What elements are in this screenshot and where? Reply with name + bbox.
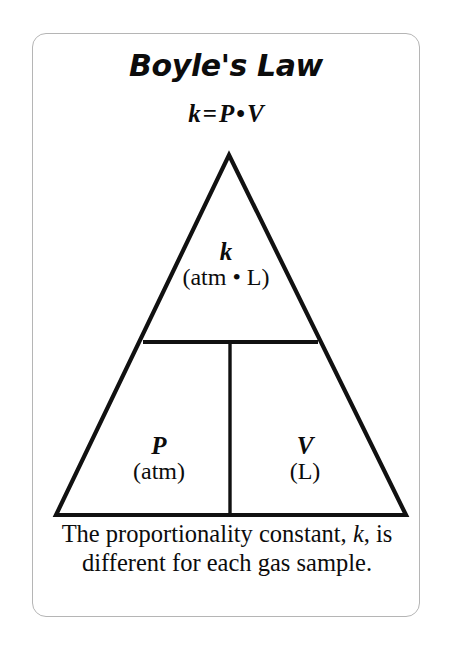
cell-v-symbol: V (235, 433, 375, 459)
caption-part-1: The proportionality constant, (62, 520, 353, 547)
triangle-cell-k: k (atm • L) (33, 239, 419, 290)
boyles-law-card: Boyle's Law k=P•V k (atm • L) P (atm) V … (32, 33, 420, 617)
formula-term-v: V (247, 100, 264, 127)
caption-italic-k: k (353, 520, 364, 547)
caption-text: The proportionality constant, k, is diff… (37, 520, 417, 578)
triangle-cell-v: V (L) (235, 433, 375, 484)
formula-equals-sign: = (201, 100, 219, 127)
page-title: Boyle's Law (33, 48, 419, 83)
cell-k-unit: (atm • L) (33, 265, 419, 290)
cell-p-symbol: P (89, 433, 229, 459)
cell-k-symbol: k (33, 239, 419, 265)
cell-v-unit: (L) (235, 459, 375, 484)
formula-term-k: k (188, 100, 201, 127)
formula-term-p: P (219, 100, 234, 127)
formula-multiply-dot-icon: • (234, 100, 247, 127)
triangle-cell-p: P (atm) (89, 433, 229, 484)
formula-equation: k=P•V (33, 100, 419, 128)
cell-p-unit: (atm) (89, 459, 229, 484)
